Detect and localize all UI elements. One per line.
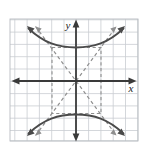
y-axis-label: y — [65, 19, 71, 31]
grid-group — [10, 19, 138, 141]
plot-background — [10, 19, 138, 141]
hyperbola-figure: y x — [0, 0, 146, 152]
x-axis-label: x — [128, 82, 134, 94]
graph-canvas: y x — [0, 0, 146, 152]
